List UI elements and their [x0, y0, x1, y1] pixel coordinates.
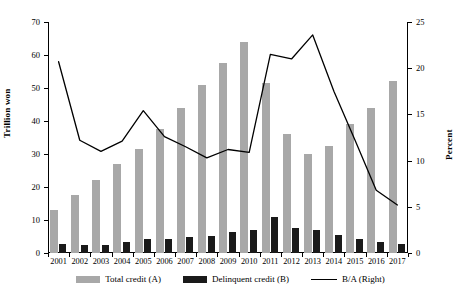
y-axis-left-tick-label: 30 — [16, 150, 40, 159]
y-axis-left-tick — [44, 220, 48, 221]
x-axis-tick — [90, 253, 91, 257]
x-axis-tick — [239, 253, 240, 257]
y-axis-left-tick — [44, 121, 48, 122]
y-axis-left-tick-label: 60 — [16, 51, 40, 60]
x-axis-tick — [323, 253, 324, 257]
y-axis-left-tick-label: 20 — [16, 183, 40, 192]
plot-area: 0102030405060700510152025 20012002200320… — [48, 22, 408, 253]
y-axis-right-tick — [408, 68, 412, 69]
x-axis-tick — [408, 253, 409, 257]
y-axis-left-tick — [44, 22, 48, 23]
y-axis-left-tick — [44, 187, 48, 188]
y-axis-left-title: Trillion won — [2, 89, 12, 139]
y-axis-right-tick-label: 20 — [416, 64, 425, 73]
legend-item: B/A (Right) — [311, 274, 385, 284]
y-axis-right-title: Percent — [444, 129, 454, 160]
y-axis-left-tick-label: 0 — [16, 249, 40, 258]
y-axis-right-tick-label: 0 — [416, 249, 420, 258]
legend-item: Delinquent credit (B) — [183, 274, 289, 284]
x-axis-tick — [260, 253, 261, 257]
y-axis-right-tick-label: 10 — [416, 157, 425, 166]
x-axis-tick — [48, 253, 49, 257]
x-axis-tick — [175, 253, 176, 257]
x-axis-tick — [196, 253, 197, 257]
x-axis-tick — [302, 253, 303, 257]
x-axis-tick — [344, 253, 345, 257]
ratio-line-series — [48, 22, 408, 253]
legend-swatch-line-black-icon — [311, 279, 337, 280]
x-axis-tick-label: 2005 — [135, 258, 152, 267]
legend-item-label: B/A (Right) — [342, 274, 385, 284]
x-axis-tick-label: 2012 — [283, 258, 300, 267]
x-axis-tick — [112, 253, 113, 257]
x-axis-tick-label: 2002 — [71, 258, 88, 267]
legend-item: Total credit (A) — [76, 274, 161, 284]
y-axis-left-tick — [44, 55, 48, 56]
y-axis-right-tick — [408, 114, 412, 115]
y-axis-right-tick — [408, 161, 412, 162]
y-axis-left-tick-label: 40 — [16, 117, 40, 126]
y-axis-right-tick-label: 15 — [416, 110, 425, 119]
legend-item-label: Delinquent credit (B) — [212, 274, 289, 284]
y-axis-left-tick — [44, 88, 48, 89]
x-axis-tick-label: 2003 — [93, 258, 110, 267]
x-axis-tick-label: 2014 — [326, 258, 343, 267]
legend-swatch-bar-gray-icon — [76, 276, 100, 283]
y-axis-left-tick-label: 10 — [16, 216, 40, 225]
legend-swatch-bar-black-icon — [183, 276, 207, 283]
x-axis-tick — [69, 253, 70, 257]
x-axis-tick-label: 2010 — [241, 258, 258, 267]
x-axis-tick-label: 2009 — [220, 258, 237, 267]
x-axis-tick-label: 2007 — [177, 258, 194, 267]
x-axis-tick-label: 2017 — [389, 258, 406, 267]
y-axis-left-tick — [44, 154, 48, 155]
y-axis-left-tick-label: 70 — [16, 18, 40, 27]
x-axis-tick — [387, 253, 388, 257]
x-axis-tick — [154, 253, 155, 257]
y-axis-right-tick — [408, 22, 412, 23]
y-axis-left-tick-label: 50 — [16, 84, 40, 93]
x-axis-tick-label: 2006 — [156, 258, 173, 267]
x-axis-tick-label: 2004 — [114, 258, 131, 267]
y-axis-right-tick — [408, 207, 412, 208]
x-axis-tick — [217, 253, 218, 257]
x-axis-tick-label: 2016 — [368, 258, 385, 267]
x-axis-tick — [133, 253, 134, 257]
chart-legend: Total credit (A)Delinquent credit (B)B/A… — [0, 274, 461, 284]
x-axis-tick — [281, 253, 282, 257]
x-axis-tick-label: 2008 — [199, 258, 216, 267]
y-axis-right-tick-label: 5 — [416, 203, 420, 212]
x-axis-tick — [366, 253, 367, 257]
y-axis-right-tick-label: 25 — [416, 18, 425, 27]
x-axis-tick-label: 2015 — [347, 258, 364, 267]
legend-item-label: Total credit (A) — [105, 274, 161, 284]
x-axis-tick-label: 2011 — [262, 258, 278, 267]
chart-container: Trillion won Percent 0102030405060700510… — [0, 0, 461, 298]
x-axis-tick-label: 2001 — [50, 258, 67, 267]
ratio-line-path — [59, 35, 398, 205]
x-axis-tick-label: 2013 — [304, 258, 321, 267]
